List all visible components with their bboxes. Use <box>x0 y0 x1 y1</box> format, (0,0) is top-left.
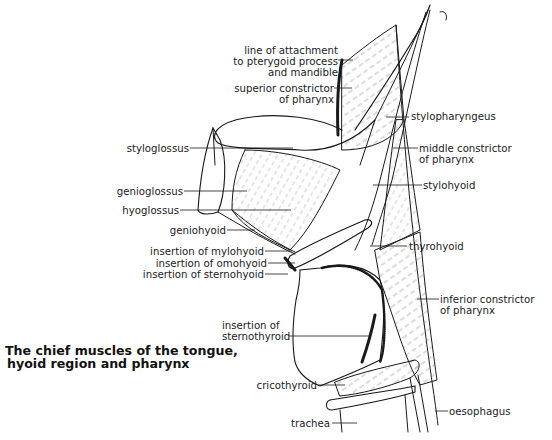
label-styloglossus: styloglossus <box>127 143 189 154</box>
figure-title: The chief muscles of the tongue, hyoid r… <box>5 344 238 370</box>
tongue-tip <box>198 128 225 214</box>
label-inferior-constrictor: inferior constrictor of pharynx <box>440 294 534 316</box>
label-superior-constrictor: superior constrictor of pharynx <box>234 83 334 105</box>
label-thyrohyoid: thyrohyoid <box>409 241 464 252</box>
label-insertion-sternothyroid: insertion of sternothyroid <box>222 320 290 342</box>
label-geniohyoid: geniohyoid <box>170 225 226 236</box>
label-hyoglossus: hyoglossus <box>122 205 179 216</box>
label-line-of-attachment: line of attachment to pterygoid process … <box>233 45 338 78</box>
label-insertion-mylohyoid: insertion of mylohyoid <box>150 246 264 257</box>
hyoglossus-sheet <box>232 150 340 250</box>
label-insertion-sternohyoid: insertion of sternohyoid <box>143 269 264 280</box>
oblique-line <box>362 315 375 362</box>
attachment-line <box>338 60 342 135</box>
label-stylohyoid: stylohyoid <box>423 180 475 191</box>
trachea <box>340 395 408 432</box>
label-oesophagus: oesophagus <box>449 406 510 417</box>
label-cricothyroid: cricothyroid <box>257 380 317 391</box>
label-middle-constrictor: middle constrictor of pharynx <box>419 143 512 165</box>
label-trachea: trachea <box>291 418 330 429</box>
label-insertion-omohyoid: insertion of omohyoid <box>156 258 267 269</box>
label-genioglossus: genioglossus <box>117 186 183 197</box>
label-stylopharyngeus: stylopharyngeus <box>411 111 496 122</box>
thyroid-cartilage <box>293 265 384 386</box>
cricothyroid <box>335 360 419 396</box>
